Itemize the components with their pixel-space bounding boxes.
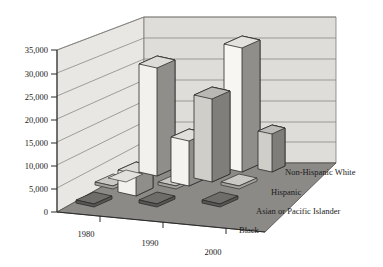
bar-white-1990: [139, 56, 175, 176]
y-tick-label-5000: 5,000: [29, 184, 48, 194]
series-label-asian-or-pacific-islander: Asian or Pacific Islander: [256, 206, 340, 216]
y-tick-label-0: 0: [44, 207, 48, 217]
series-label-hispanic: Hispanic: [271, 187, 301, 197]
chart-container: 0 5,000 10,000 15,000 20,000 25,000 30,0…: [0, 0, 383, 267]
y-tick-label-30000: 30,000: [25, 69, 48, 79]
y-tick-label-25000: 25,000: [25, 92, 48, 102]
x-tick-label-1990: 1990: [142, 238, 159, 248]
y-axis: 0 5,000 10,000 15,000 20,000 25,000 30,0…: [25, 45, 57, 217]
y-tick-label-10000: 10,000: [25, 161, 48, 171]
y-tick-label-15000: 15,000: [25, 138, 48, 148]
series-label-black: Black: [239, 225, 260, 235]
y-tick-label-35000: 35,000: [25, 45, 48, 55]
bar-black-2000-riser: [258, 125, 285, 172]
bar-chart-3d: 0 5,000 10,000 15,000 20,000 25,000 30,0…: [0, 0, 383, 267]
x-tick-label-2000: 2000: [205, 247, 222, 257]
x-tick-label-1980: 1980: [78, 229, 95, 239]
y-axis-ticks: [51, 50, 57, 212]
bar-hispanic-2000: [194, 87, 230, 182]
y-tick-label-20000: 20,000: [25, 115, 48, 125]
series-label-non-hispanic-white: Non-Hispanic White: [285, 167, 356, 177]
